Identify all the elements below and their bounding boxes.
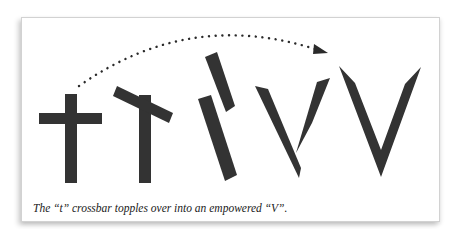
stage-tilting-t	[113, 86, 173, 183]
figure-caption: The “t” crossbar topples over into an em…	[33, 202, 287, 214]
stage-toppled-bars	[198, 52, 237, 181]
stage-forming-v	[255, 78, 330, 178]
stage-empowered-v	[339, 66, 421, 177]
arrowhead-icon	[313, 44, 328, 54]
transformation-illustration	[0, 0, 458, 229]
dotted-arc-arrow	[79, 35, 328, 86]
stage-upright-t	[39, 94, 102, 183]
